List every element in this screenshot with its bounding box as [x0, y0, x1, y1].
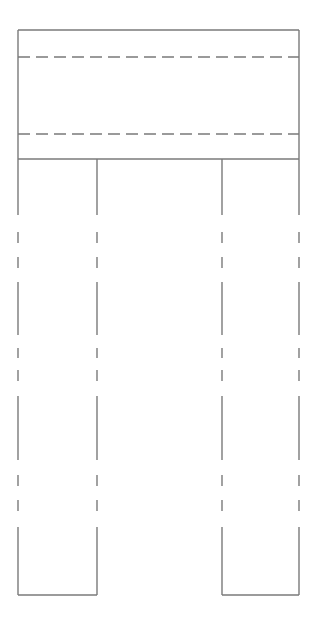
left-leg: [18, 159, 97, 595]
top-block: [18, 30, 299, 159]
mechanical-drawing: [0, 0, 316, 621]
legs: [18, 159, 299, 595]
hidden-lines-horizontal: [18, 57, 299, 134]
right-leg: [222, 159, 299, 595]
